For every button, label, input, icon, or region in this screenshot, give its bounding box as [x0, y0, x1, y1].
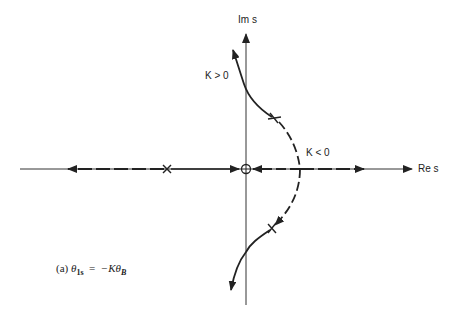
zero-marker-origin — [242, 165, 251, 174]
caption-rhs-subscript: B — [121, 268, 126, 277]
pole-marker-upper — [268, 113, 281, 123]
positive-gain-label: K > 0 — [205, 70, 229, 81]
pole-marker-lower — [268, 223, 276, 233]
root-locus-diagram: Im s Re s K > 0 K < 0 (a) θ1s = −KθB — [0, 0, 453, 318]
caption-lhs-subscript: 1s — [76, 268, 83, 277]
negative-gain-arc — [275, 122, 300, 225]
caption-rhs: −Kθ — [101, 262, 121, 274]
lower-branch-positive-gain — [231, 230, 270, 290]
upper-branch-positive-gain — [233, 50, 272, 117]
negative-gain-label: K < 0 — [306, 147, 330, 158]
caption-equals: = — [89, 262, 95, 274]
figure-caption: (a) θ1s = −KθB — [56, 262, 126, 277]
caption-prefix: (a) — [56, 262, 68, 274]
imaginary-axis-label: Im s — [238, 14, 257, 25]
real-axis-label: Re s — [418, 163, 439, 174]
